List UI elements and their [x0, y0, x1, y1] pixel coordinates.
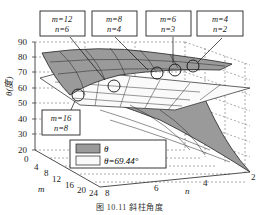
svg-text:60: 60	[18, 83, 28, 93]
svg-text:n=8: n=8	[54, 123, 69, 133]
legend-label-plane: θ=69.44°	[104, 156, 139, 166]
z-axis-label: θ(度)	[4, 77, 14, 96]
svg-text:20: 20	[77, 185, 87, 195]
legend: θ θ=69.44°	[70, 140, 166, 168]
svg-text:n=6: n=6	[55, 24, 70, 34]
legend-swatch-theta	[76, 144, 100, 153]
n-axis-label: n	[185, 186, 190, 196]
svg-text:n=2: n=2	[213, 24, 228, 34]
svg-text:50: 50	[18, 98, 28, 108]
svg-text:70: 70	[18, 67, 28, 77]
z-axis: 90 80 70 60 50 40 30 20 θ(度)	[4, 37, 35, 155]
svg-text:8: 8	[105, 188, 110, 198]
svg-text:4: 4	[34, 162, 39, 172]
annotation-m16-n8: m=16 n=8	[42, 110, 80, 135]
svg-text:m=6: m=6	[160, 14, 177, 24]
annotation-m8-n4: m=8 n=4	[92, 11, 137, 36]
svg-text:n=3: n=3	[161, 24, 175, 34]
annotation-m4-n2: m=4 n=2	[197, 11, 243, 36]
svg-text:n=4: n=4	[107, 24, 122, 34]
svg-text:16: 16	[65, 180, 75, 190]
svg-text:m=16: m=16	[51, 113, 72, 123]
svg-text:80: 80	[18, 52, 28, 62]
svg-text:90: 90	[18, 37, 28, 47]
legend-label-theta: θ	[104, 144, 109, 154]
svg-text:0: 0	[24, 154, 29, 164]
figure-caption: 图 10.11 斜柱角度	[0, 201, 259, 212]
m-axis-label: m	[38, 184, 45, 194]
svg-text:8: 8	[44, 168, 49, 178]
n-axis-ticks: 8 6 4 2 n	[105, 172, 256, 198]
svg-text:m=8: m=8	[106, 14, 123, 24]
svg-text:4: 4	[203, 178, 208, 188]
svg-text:30: 30	[18, 129, 28, 139]
annotation-m6-n3: m=6 n=3	[146, 11, 191, 36]
legend-swatch-plane	[76, 156, 100, 165]
svg-text:m=12: m=12	[52, 14, 73, 24]
svg-text:24: 24	[89, 188, 99, 198]
svg-text:12: 12	[52, 174, 61, 184]
svg-text:m=4: m=4	[212, 14, 229, 24]
annotation-m12-n6: m=12 n=6	[40, 11, 85, 36]
svg-text:6: 6	[154, 183, 159, 193]
surface-chart: 90 80 70 60 50 40 30 20 θ(度) 0 4 8 12 16…	[0, 0, 259, 215]
svg-text:2: 2	[251, 172, 256, 182]
svg-text:40: 40	[18, 114, 28, 124]
